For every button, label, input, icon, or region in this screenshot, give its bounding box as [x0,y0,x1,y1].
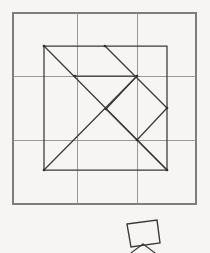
figure-canvas [0,0,210,253]
tangram-diagram-svg [0,0,210,253]
tangram-vertex-dot-8 [166,169,169,172]
tangram-vertex-dot-6 [136,139,139,142]
tangram-vertex-dot-7 [43,169,46,172]
tangram-vertex-dot-5 [166,107,169,110]
tangram-vertex-dot-3 [136,75,139,78]
tangram-vertex-dot-4 [105,108,108,111]
tangram-vertex-dot-1 [104,45,107,48]
tangram-vertex-dot-0 [43,45,46,48]
paper-background [0,0,210,253]
tangram-vertex-dot-2 [74,75,77,78]
